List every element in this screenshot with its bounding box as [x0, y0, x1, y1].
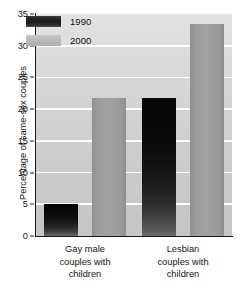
- y-tick-label-15: 15: [18, 136, 28, 146]
- legend-swatch-1990: [26, 16, 61, 27]
- y-tick-label-25: 25: [18, 72, 28, 82]
- y-tick-mark-0: [30, 236, 34, 237]
- legend-label-2000: 2000: [70, 35, 91, 46]
- legend-item-1990: 1990: [26, 14, 118, 29]
- bar-2000-cat1: [190, 24, 224, 236]
- bar-chart-figure: Percentage of same-sex couples 051015202…: [0, 0, 245, 298]
- legend-swatch-2000: [26, 35, 61, 46]
- y-tick-label-20: 20: [18, 104, 28, 114]
- bar-1990-cat1: [142, 98, 176, 236]
- y-tick-label-5: 5: [23, 199, 28, 209]
- y-tick-mark-25: [30, 77, 34, 78]
- legend-label-1990: 1990: [70, 16, 91, 27]
- bar-2000-cat0: [92, 98, 126, 236]
- y-tick-label-10: 10: [18, 168, 28, 178]
- y-tick-mark-10: [30, 172, 34, 173]
- x-category-label-1: Lesbiancouples withchildren: [134, 243, 232, 281]
- y-tick-mark-15: [30, 140, 34, 141]
- x-axis-category-labels: Gay malecouples withchildrenLesbiancoupl…: [36, 243, 232, 295]
- bar-1990-cat0: [44, 204, 78, 236]
- y-tick-mark-20: [30, 109, 34, 110]
- legend: 1990 2000: [26, 14, 118, 52]
- y-tick-label-0: 0: [23, 231, 28, 241]
- y-tick-mark-5: [30, 204, 34, 205]
- legend-item-2000: 2000: [26, 33, 118, 48]
- x-category-label-0: Gay malecouples withchildren: [36, 243, 134, 281]
- x-axis-line: [35, 236, 233, 237]
